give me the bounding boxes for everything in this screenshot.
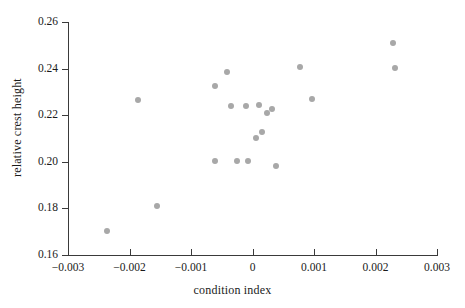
data-point — [309, 96, 315, 102]
y-axis-label: relative crest height — [10, 38, 25, 218]
x-tick-mark — [437, 249, 438, 255]
x-axis-label: condition index — [0, 283, 465, 298]
x-tick-label: −0.001 — [156, 262, 226, 274]
data-point — [269, 106, 275, 112]
data-point — [234, 158, 240, 164]
x-tick-label: 0.002 — [341, 262, 411, 274]
x-tick-label: 0 — [218, 262, 288, 274]
y-tick-label: 0.16 — [8, 249, 58, 261]
scatter-plot-figure: 0.160.180.200.220.240.26 −0.003−0.002−0.… — [0, 0, 465, 308]
data-point — [392, 65, 398, 71]
y-tick-label: 0.26 — [8, 16, 58, 28]
x-axis-line — [68, 255, 438, 256]
data-point — [154, 203, 160, 209]
x-tick-label: 0.003 — [402, 262, 465, 274]
data-point — [256, 102, 262, 108]
data-point — [264, 110, 270, 116]
data-point — [253, 135, 259, 141]
data-point — [245, 158, 251, 164]
x-tick-label: −0.003 — [33, 262, 103, 274]
x-tick-label: −0.002 — [95, 262, 165, 274]
data-point — [212, 158, 218, 164]
x-tick-label: 0.001 — [279, 262, 349, 274]
data-point — [297, 64, 303, 70]
data-point — [135, 97, 141, 103]
y-tick-mark — [62, 255, 68, 256]
data-point — [104, 228, 110, 234]
data-point — [212, 83, 218, 89]
